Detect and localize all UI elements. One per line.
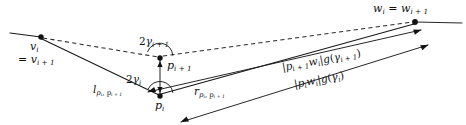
label-right-edge: rpi, pi + 1 — [194, 86, 225, 97]
right-edge-sub-i: i — [203, 94, 204, 99]
label-v-eq-sign: = — [18, 53, 27, 66]
left-tail-line — [10, 33, 41, 37]
diagram-canvas — [0, 0, 466, 125]
geometry-figure: vi = vi + 1 wi = wi + 1 2γi + 1 2γi pi +… — [0, 0, 466, 125]
angle-lower-coefficient: 2 — [126, 73, 133, 85]
measure-upper-arrowhead-right — [413, 30, 421, 35]
point-upper-base: p — [167, 59, 174, 72]
measure-lower-arrowhead-left — [181, 116, 189, 122]
label-vertex-w: wi = wi + 1 — [373, 3, 428, 14]
point-lower-base: p — [155, 99, 162, 112]
dashed-segment-pupper-to-w — [163, 22, 413, 56]
label-v-eq-sub: i + 1 — [37, 58, 55, 67]
label-w-eq-sub: i + 1 — [410, 7, 428, 16]
angle-lower-sub: i — [139, 79, 141, 87]
vertex-dot-p-upper — [157, 55, 162, 60]
label-w-eq-base: w — [401, 2, 410, 15]
left-edge-sub-comma: , p — [102, 89, 111, 97]
label-vertex-v-equality: = vi + 1 — [18, 54, 55, 65]
angle-upper-sub: i + 1 — [152, 41, 169, 49]
right-tail-line — [415, 22, 462, 23]
angle-upper-coefficient: 2 — [139, 35, 146, 47]
label-point-p-upper: pi + 1 — [167, 60, 192, 71]
label-left-edge: lpi, pi + 1 — [93, 84, 122, 95]
label-w-base: w — [373, 2, 382, 15]
vertex-dot-w — [412, 19, 418, 25]
right-edge-sub-ip1: i + 1 — [214, 94, 225, 99]
left-edge-sub-ip1: i + 1 — [111, 92, 122, 97]
vertex-dot-v — [38, 34, 43, 39]
label-w-sub: i — [382, 7, 384, 16]
right-edge-sub-comma: , p — [205, 91, 214, 99]
connector-arrowhead-up — [157, 61, 162, 67]
measure-lower-arrowhead-right — [420, 45, 428, 50]
vertex-dot-p-lower — [157, 93, 162, 98]
dist-lower-p-sub: i — [304, 82, 308, 90]
label-v-eq-base: v — [31, 53, 37, 66]
label-vertex-v: vi — [30, 41, 39, 52]
left-edge-subscript: pi, pi + 1 — [96, 89, 122, 97]
label-angle-lower: 2γi — [126, 74, 141, 85]
point-upper-sub: i + 1 — [174, 64, 192, 73]
label-point-p-lower: pi — [155, 100, 164, 111]
label-w-eq-sign: = — [388, 2, 397, 15]
right-edge-subscript: pi, pi + 1 — [199, 91, 225, 99]
label-angle-upper: 2γi + 1 — [139, 36, 169, 47]
